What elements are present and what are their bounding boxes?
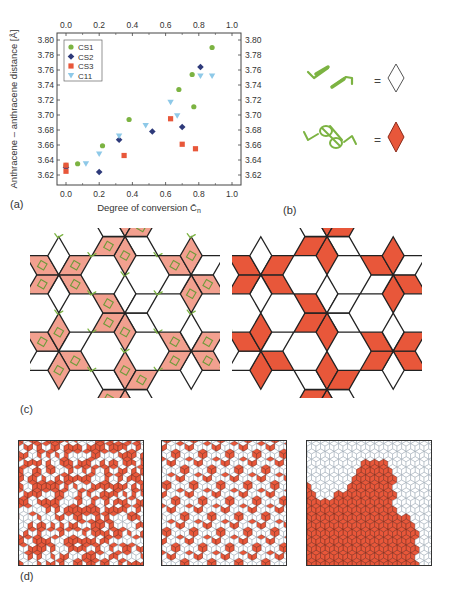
y-tick-label-right: 3.70 [245,110,262,120]
x-tick-label-top: 0.4 [126,20,138,30]
x-tick-label-bottom: 0.0 [60,189,72,199]
tiling-simulation-random [18,440,144,566]
y-tick-label-left: 3.76 [37,65,54,75]
circle-marker [176,87,181,92]
y-tick-label-left: 3.72 [37,95,54,105]
legend-label: C11 [78,72,93,81]
strands-separate-icon [308,67,352,87]
panel-label-b: (b) [283,204,296,216]
x-tick-label-top: 1.0 [226,20,238,30]
circle-marker [100,143,105,148]
triangle-down-marker [96,152,102,157]
y-tick-label-right: 3.76 [245,65,262,75]
panel-label-c: (c) [20,403,33,415]
filled-rhombus-tile [327,228,360,237]
square-marker [168,116,173,121]
y-tick-label-right: 3.68 [245,125,262,135]
circle-marker [68,44,73,49]
triangle-down-marker [116,134,122,139]
x-tick-label-bottom: 0.6 [160,189,172,199]
square-marker [180,142,185,147]
diamond-marker [179,124,186,131]
panel-label-a: (a) [10,198,23,210]
y-tick-label-right: 3.72 [245,95,262,105]
y-tick-label-left: 3.78 [37,50,54,60]
circle-marker [209,45,214,50]
strands-dimer-icon [304,126,356,148]
filled-rhombus-tile [92,390,125,399]
circle-marker [126,117,131,122]
tile-legend-diagram: = = [280,60,451,200]
x-tick-label-bottom: 0.8 [193,189,205,199]
scatter-chart: 0.00.00.20.20.40.40.60.60.80.81.01.03.62… [0,0,280,215]
chart-legend: CS1CS2CS3C11 [64,40,102,81]
square-marker [63,163,68,168]
triangle-down-marker [197,74,203,79]
empty-rhombus-tile [294,228,327,237]
legend-label: CS3 [78,62,94,71]
x-tick-label-bottom: 0.2 [93,189,105,199]
y-tick-label-left: 3.68 [37,125,54,135]
square-marker [63,169,68,174]
y-axis-label: Anthracene – anthracene distance [Å] [8,30,19,189]
y-tick-label-right: 3.64 [245,155,262,165]
x-tick-label-top: 0.0 [60,20,72,30]
y-tick-label-left: 3.64 [37,155,54,165]
series-c11 [83,74,216,167]
circle-marker [191,104,196,109]
triangle-down-marker [142,123,148,128]
panel-label-d: (d) [20,570,33,582]
y-tick-label-right: 3.66 [245,140,262,150]
y-tick-label-left: 3.66 [37,140,54,150]
legend-label: CS1 [78,43,94,52]
filled-rhombus-tile [125,228,158,237]
equals-sign-1: = [374,74,381,88]
x-axis-label: Degree of conversion C̄n [97,202,201,214]
series-cs3 [63,116,198,174]
equals-sign-2: = [374,133,381,147]
empty-rhombus-tile [125,390,158,399]
x-tick-label-top: 0.8 [193,20,205,30]
y-tick-label-right: 3.62 [245,170,262,180]
square-marker [193,146,198,151]
y-tick-label-right: 3.74 [245,80,262,90]
triangle-down-marker [167,100,173,105]
empty-rhombus-icon [388,64,404,92]
square-marker [68,63,73,68]
y-tick-label-left: 3.74 [37,80,54,90]
empty-rhombus-tile [327,390,360,399]
diamond-marker [197,64,204,71]
circle-marker [190,72,195,77]
y-tick-label-left: 3.80 [37,35,54,45]
y-tick-label-right: 3.78 [245,50,262,60]
filled-rhombus-tile [294,390,327,399]
x-tick-label-top: 0.6 [160,20,172,30]
circle-marker [75,161,80,166]
legend-label: CS2 [78,53,94,62]
rhombus-tiling-with-molecules [30,228,220,398]
rhombus-tiling-schematic [232,228,422,398]
empty-rhombus-tile [92,228,125,237]
x-tick-label-bottom: 0.4 [126,189,138,199]
triangle-down-marker [83,161,89,166]
filled-rhombus-icon [388,122,404,152]
x-tick-label-top: 0.2 [93,20,105,30]
triangle-down-marker [209,74,215,79]
tiling-simulation-phase-separated [306,440,432,566]
tiling-simulation-alternating [161,440,287,566]
y-tick-label-left: 3.62 [37,170,54,180]
diamond-marker [96,169,103,176]
y-tick-label-right: 3.80 [245,35,262,45]
x-tick-label-bottom: 1.0 [226,189,238,199]
y-tick-label-left: 3.70 [37,110,54,120]
square-marker [122,153,127,158]
diamond-marker [149,128,156,135]
triangle-down-marker [174,113,180,118]
